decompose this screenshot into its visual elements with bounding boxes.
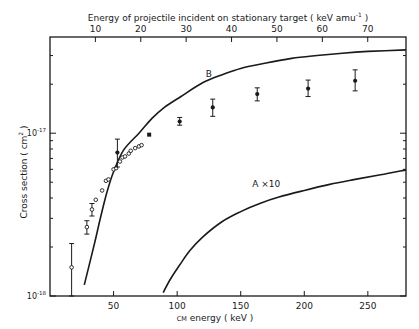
data-point-filled <box>255 92 259 96</box>
y-axis-title: Cross section ( cm2 ) <box>17 125 29 218</box>
curve-annotation: B <box>206 69 212 79</box>
y-tick-label: 10-17 <box>27 127 47 138</box>
top-tick-label: 70 <box>362 24 374 34</box>
data-point-open <box>70 266 74 270</box>
data-point-open <box>123 155 127 159</box>
data-point-filled <box>115 151 119 155</box>
top-tick-label: 60 <box>317 24 329 34</box>
top-tick-label: 50 <box>271 24 283 34</box>
data-point-open <box>129 149 133 153</box>
top-axis-title: Energy of projectile incident on station… <box>88 11 368 23</box>
data-point-open <box>100 189 104 193</box>
x-tick-label: 150 <box>232 301 249 311</box>
plot-frame <box>50 37 406 296</box>
data-point-open <box>140 143 144 147</box>
x-tick-label: 100 <box>169 301 186 311</box>
x-axis-title: CM energy ( keV ) <box>177 313 254 323</box>
x-tick-label: 250 <box>359 301 376 311</box>
curve-annotation: A ×10 <box>252 179 280 189</box>
data-point-filled <box>353 79 357 83</box>
x-tick-label: 200 <box>296 301 313 311</box>
data-point-square <box>147 133 151 137</box>
data-point-open <box>85 225 89 229</box>
data-point-open <box>133 146 137 150</box>
x-tick-label: 50 <box>108 301 120 311</box>
curve-b <box>84 50 406 285</box>
top-tick-label: 20 <box>135 24 147 34</box>
data-point-filled <box>178 119 182 123</box>
data-point-open <box>107 178 111 182</box>
top-tick-label: 30 <box>180 24 192 34</box>
top-tick-label: 40 <box>226 24 238 34</box>
data-point-filled <box>306 86 310 90</box>
curve-a-x10 <box>163 170 406 293</box>
data-point-open <box>90 208 94 212</box>
data-point-filled <box>211 105 215 109</box>
chart: 501001502002501020304050607010-1710-18 B… <box>0 0 419 329</box>
data-point-open <box>94 198 98 202</box>
data-point-open <box>118 160 122 164</box>
top-tick-label: 10 <box>90 24 102 34</box>
y-tick-label: 10-18 <box>27 290 47 301</box>
